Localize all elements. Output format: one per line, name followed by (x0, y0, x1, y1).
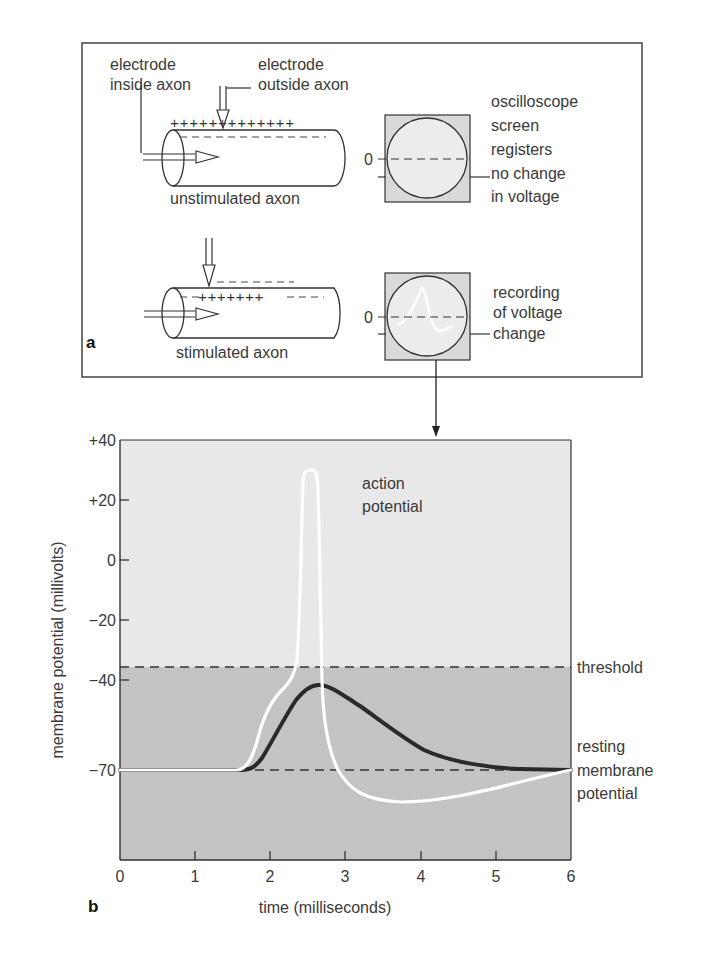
svg-text:no change: no change (491, 165, 566, 182)
x-axis-label: time (milliseconds) (259, 899, 391, 916)
svg-text:recording: recording (493, 284, 560, 301)
action-potential-annotation-1: action (362, 475, 405, 492)
electrode-outside-label-2: outside axon (258, 76, 349, 93)
svg-text:registers: registers (491, 141, 552, 158)
panel-b-label: b (88, 897, 98, 916)
resting-annotation-3: potential (577, 785, 638, 802)
svg-text:−40: −40 (89, 672, 116, 689)
oscilloscope-zero-label: 0 (364, 151, 373, 168)
outer-positive-charges: +++++++++++++ (170, 116, 295, 133)
svg-text:5: 5 (492, 868, 501, 885)
svg-text:0: 0 (116, 868, 125, 885)
svg-text:4: 4 (417, 868, 426, 885)
svg-text:0: 0 (107, 552, 116, 569)
svg-text:change: change (493, 325, 546, 342)
unstimulated-axon-caption: unstimulated axon (170, 190, 300, 207)
svg-text:2: 2 (266, 868, 275, 885)
svg-text:in voltage: in voltage (491, 188, 560, 205)
resting-annotation-2: membrane (577, 762, 654, 779)
panel-a-label: a (86, 333, 96, 352)
svg-text:−20: −20 (89, 612, 116, 629)
resting-annotation-1: resting (577, 738, 625, 755)
stimulated-axon-caption: stimulated axon (176, 344, 288, 361)
svg-text:of voltage: of voltage (493, 304, 562, 321)
electrode-inside-label-2: inside axon (110, 76, 191, 93)
svg-text:3: 3 (341, 868, 350, 885)
figure: a electrode inside axon electrode outsid… (0, 0, 702, 960)
electrode-outside-label-1: electrode (258, 56, 324, 73)
svg-text:screen: screen (491, 117, 539, 134)
oscilloscope-zero-label-2: 0 (364, 309, 373, 326)
electrode-inside-label-1: electrode (110, 56, 176, 73)
y-axis-label: membrane potential (millivolts) (49, 542, 66, 759)
panel-a: a electrode inside axon electrode outsid… (82, 43, 642, 437)
svg-text:+40: +40 (89, 432, 116, 449)
svg-text:6: 6 (567, 868, 576, 885)
panel-b: +40 +20 0 −20 −40 −70 0 1 2 3 4 5 6 time… (49, 432, 654, 916)
svg-text:oscilloscope: oscilloscope (491, 93, 578, 110)
svg-text:1: 1 (191, 868, 200, 885)
svg-text:−70: −70 (89, 762, 116, 779)
threshold-annotation: threshold (577, 659, 643, 676)
inner-positive-charges: +++++++ (198, 290, 264, 307)
action-potential-annotation-2: potential (362, 498, 423, 515)
svg-text:+20: +20 (89, 492, 116, 509)
